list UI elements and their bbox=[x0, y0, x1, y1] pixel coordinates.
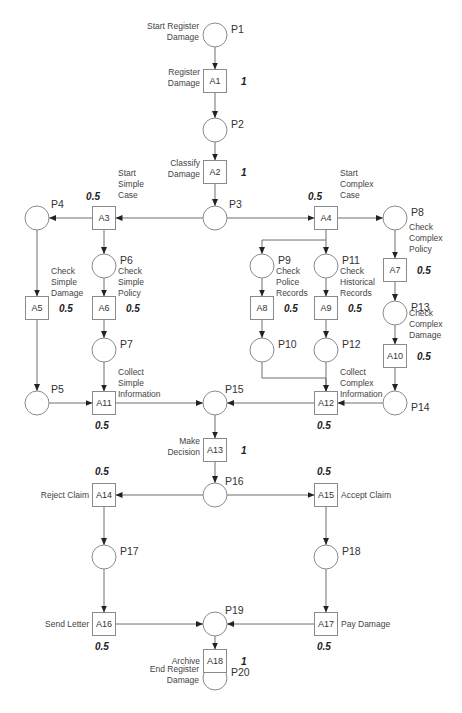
place-circle[interactable] bbox=[250, 254, 274, 278]
place-label: P9 bbox=[278, 254, 291, 266]
place-circle[interactable] bbox=[203, 206, 227, 230]
place-label: P3 bbox=[229, 198, 242, 210]
transition-a5[interactable]: A5CheckSimpleDamage0.5 bbox=[26, 266, 84, 320]
transition-label: A5 bbox=[31, 303, 42, 313]
transition-label: A4 bbox=[320, 213, 331, 223]
place-label: P11 bbox=[342, 254, 360, 266]
transition-label: A1 bbox=[209, 76, 220, 86]
description-line: Case bbox=[118, 190, 138, 200]
transition-probability: 0.5 bbox=[317, 641, 331, 652]
place-circle[interactable] bbox=[25, 391, 49, 415]
transition-description: CollectSimpleInformation bbox=[118, 367, 161, 399]
description-line: Reject Claim bbox=[41, 490, 89, 500]
place-circle[interactable] bbox=[383, 391, 407, 415]
description-line: Start bbox=[118, 168, 137, 178]
place-label: P4 bbox=[51, 198, 64, 210]
place-circle[interactable] bbox=[314, 545, 338, 569]
transition-a11[interactable]: A11CollectSimpleInformation0.5 bbox=[93, 367, 161, 431]
place-p7[interactable]: P7 bbox=[92, 338, 133, 362]
transition-a3[interactable]: A3StartSimpleCase0.5 bbox=[86, 168, 144, 230]
transition-probability: 1 bbox=[241, 656, 247, 667]
transition-description: Reject Claim bbox=[41, 490, 89, 500]
place-circle[interactable] bbox=[203, 118, 227, 142]
place-circle[interactable] bbox=[383, 206, 407, 230]
transition-label: A12 bbox=[318, 398, 334, 408]
place-p18[interactable]: P18 bbox=[314, 545, 361, 569]
place-circle[interactable] bbox=[203, 391, 227, 415]
place-circle[interactable] bbox=[203, 23, 227, 47]
description-line: Send Letter bbox=[45, 619, 89, 629]
transition-a2[interactable]: A2ClassifyDamage1 bbox=[168, 158, 247, 184]
place-p20[interactable]: P20End RegisterDamage bbox=[150, 664, 250, 690]
place-circle[interactable] bbox=[92, 338, 116, 362]
place-p15[interactable]: P15 bbox=[203, 383, 244, 415]
place-p3[interactable]: P3 bbox=[203, 198, 242, 230]
place-p19[interactable]: P19 bbox=[203, 604, 244, 636]
place-circle[interactable] bbox=[203, 483, 227, 507]
description-line: Complex bbox=[340, 179, 374, 189]
description-line: Simple bbox=[118, 378, 144, 388]
transition-a17[interactable]: A17Pay Damage0.5 bbox=[315, 613, 391, 653]
place-p10[interactable]: P10 bbox=[250, 338, 297, 362]
place-label: P20 bbox=[231, 666, 250, 678]
transition-probability: 0.5 bbox=[317, 466, 331, 477]
place-p12[interactable]: P12 bbox=[314, 338, 361, 362]
transition-a1[interactable]: A1RegisterDamage1 bbox=[168, 67, 247, 93]
transition-probability: 0.5 bbox=[95, 466, 109, 477]
place-p1[interactable]: P1Start RegisterDamage bbox=[147, 21, 244, 47]
transition-probability: 0.5 bbox=[317, 420, 331, 431]
transition-a7[interactable]: A7CheckComplexPolicy0.5 bbox=[384, 222, 444, 282]
place-circle[interactable] bbox=[314, 338, 338, 362]
transition-a12[interactable]: A12CollectComplexInformation0.5 bbox=[315, 367, 383, 431]
description-line: Damage bbox=[168, 78, 200, 88]
arc-p10-to-a12 bbox=[262, 362, 326, 392]
description-line: Simple bbox=[118, 179, 144, 189]
description-line: Check bbox=[409, 308, 434, 318]
place-label: P12 bbox=[342, 338, 361, 350]
place-label: P2 bbox=[231, 118, 244, 130]
transition-a13[interactable]: A13MakeDecision1 bbox=[167, 436, 247, 462]
transition-probability: 0.5 bbox=[95, 420, 109, 431]
place-label: P7 bbox=[120, 338, 133, 350]
place-circle[interactable] bbox=[383, 301, 407, 325]
transition-a14[interactable]: A14Reject Claim0.5 bbox=[41, 466, 116, 507]
transition-description: StartComplexCase bbox=[340, 168, 374, 200]
place-label: P8 bbox=[411, 206, 424, 218]
transition-description: CheckHistoricalRecords bbox=[340, 266, 375, 298]
place-circle[interactable] bbox=[92, 254, 116, 278]
place-circle[interactable] bbox=[314, 254, 338, 278]
place-circle[interactable] bbox=[250, 338, 274, 362]
transition-label: A7 bbox=[389, 265, 400, 275]
transition-probability: 0.5 bbox=[417, 265, 431, 276]
place-circle[interactable] bbox=[203, 612, 227, 636]
transition-a16[interactable]: A16Send Letter0.5 bbox=[45, 613, 115, 653]
description-line: Damage bbox=[51, 288, 83, 298]
transition-label: A9 bbox=[320, 303, 331, 313]
place-p14[interactable]: P14 bbox=[383, 391, 430, 415]
place-p5[interactable]: P5 bbox=[25, 383, 64, 415]
transition-description: Pay Damage bbox=[341, 619, 390, 629]
transition-a15[interactable]: A15Accept Claim0.5 bbox=[315, 466, 392, 507]
description-line: Records bbox=[340, 288, 372, 298]
transition-probability: 0.5 bbox=[95, 641, 109, 652]
description-line: Collect bbox=[118, 367, 145, 377]
transition-a4[interactable]: A4StartComplexCase0.5 bbox=[308, 168, 374, 230]
place-circle[interactable] bbox=[25, 206, 49, 230]
description-line: Check bbox=[51, 266, 76, 276]
place-p16[interactable]: P16 bbox=[203, 475, 244, 507]
description-line: Information bbox=[340, 389, 383, 399]
description-line: Damage bbox=[409, 330, 441, 340]
transition-probability: 1 bbox=[241, 167, 247, 178]
place-p17[interactable]: P17 bbox=[92, 545, 139, 569]
place-label: P1 bbox=[231, 23, 244, 35]
description-line: Historical bbox=[340, 277, 375, 287]
transition-label: A14 bbox=[96, 490, 112, 500]
description-line: Damage bbox=[168, 169, 200, 179]
place-p2[interactable]: P2 bbox=[203, 118, 244, 142]
transition-description: CheckComplexPolicy bbox=[409, 222, 443, 254]
place-label: P10 bbox=[278, 338, 297, 350]
transition-label: A15 bbox=[318, 490, 334, 500]
transition-description: CheckComplexDamage bbox=[409, 308, 443, 340]
place-circle[interactable] bbox=[92, 545, 116, 569]
place-p4[interactable]: P4 bbox=[25, 198, 64, 230]
